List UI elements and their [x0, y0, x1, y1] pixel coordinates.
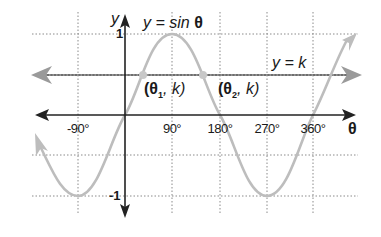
sine-label-prefix: y = sin — [143, 14, 194, 31]
point-2-close: , k) — [237, 80, 259, 97]
k-line — [31, 66, 362, 84]
sine-left-arrow-icon — [35, 133, 48, 156]
sine-graph — [0, 0, 381, 237]
x-tick-90: 90° — [163, 121, 181, 136]
x-tick-360: 360° — [301, 121, 326, 136]
y-axis — [120, 14, 130, 218]
sine-function-label: y = sin θ — [143, 14, 203, 32]
x-axis-label: θ — [348, 120, 357, 138]
point-2-label: (θ2, k) — [218, 80, 259, 100]
x-tick-180: 180° — [208, 121, 233, 136]
point-1-open: (θ — [144, 80, 158, 97]
y-tick-1: 1 — [116, 26, 123, 41]
intersection-point-1 — [139, 71, 147, 79]
x-axis — [35, 109, 356, 121]
intersection-point-2 — [199, 71, 207, 79]
point-1-close: , k) — [163, 80, 185, 97]
k-line-label: y = k — [272, 54, 306, 72]
y-tick-neg1: -1 — [109, 188, 121, 203]
x-tick-270: 270° — [255, 121, 280, 136]
point-2-open: (θ — [218, 80, 232, 97]
sine-label-theta: θ — [194, 14, 203, 31]
grid — [32, 12, 358, 215]
x-tick-neg90: -90° — [67, 121, 89, 136]
sine-right-arrow-icon — [342, 33, 357, 51]
point-1-label: (θ1, k) — [144, 80, 185, 100]
